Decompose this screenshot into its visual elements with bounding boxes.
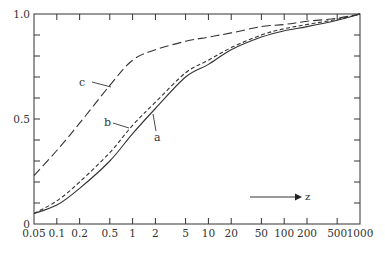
- curve-c: [34, 14, 360, 176]
- line-chart: 0.050.10.20.5125102050100200500100000.51…: [0, 0, 385, 254]
- plot-frame: [34, 14, 360, 224]
- y-tick-label: 1.0: [13, 8, 30, 20]
- x-tick-label: 0.2: [71, 227, 88, 239]
- x-tick-label: 100: [274, 227, 294, 239]
- x-tick-label: 500: [327, 227, 347, 239]
- chart-container: 0.050.10.20.5125102050100200500100000.51…: [0, 0, 385, 254]
- axis-tick-labels: 0.050.10.20.5125102050100200500100000.51…: [13, 8, 373, 239]
- z-arrow-label: z: [305, 191, 310, 202]
- z-arrow-head-icon: [295, 194, 302, 201]
- x-tick-label: 0.1: [48, 227, 65, 239]
- curve-label-c: c: [79, 76, 85, 89]
- x-tick-label: 0.5: [101, 227, 118, 239]
- curve-b: [34, 14, 360, 214]
- leader-line-c: [92, 82, 111, 87]
- axis-ticks: [34, 14, 360, 224]
- x-tick-label: 50: [255, 227, 268, 239]
- x-tick-label: 20: [225, 227, 238, 239]
- x-tick-label: 200: [297, 227, 317, 239]
- axes: [34, 14, 360, 224]
- x-tick-label: 1: [129, 227, 136, 239]
- annotations: c b a z ,: [79, 76, 373, 234]
- x-tick-label: 5: [182, 227, 189, 239]
- x-tick-label: 2: [152, 227, 159, 239]
- y-tick-label: 0: [23, 218, 30, 230]
- x-tick-label: 10: [202, 227, 215, 239]
- curve-label-a: a: [154, 131, 161, 144]
- stray-mark: ,: [370, 225, 373, 234]
- curve-label-b: b: [104, 116, 111, 129]
- data-curves: [34, 14, 360, 214]
- leader-line-a: [153, 114, 156, 131]
- leader-line-b: [113, 123, 129, 128]
- y-tick-label: 0.5: [13, 113, 30, 125]
- curve-a: [34, 14, 360, 214]
